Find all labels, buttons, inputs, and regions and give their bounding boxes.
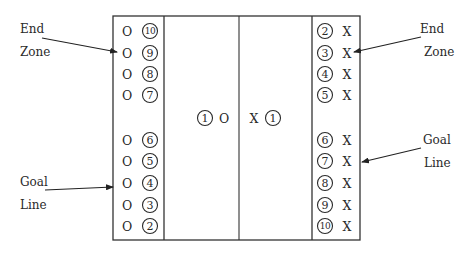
center-right-player-number: 1 <box>270 112 277 125</box>
right-player: 6X <box>318 133 352 148</box>
player-number: 8 <box>322 177 329 190</box>
annotation-left-end-zone: End Zone <box>20 22 117 59</box>
player-marker-o: O <box>122 67 132 82</box>
player-number: 5 <box>147 155 154 168</box>
player-marker-o: O <box>122 88 132 103</box>
left-player: O6 <box>122 133 158 148</box>
left-player: O9 <box>122 46 158 61</box>
player-number: 7 <box>147 89 154 102</box>
annotation-label-line1: End <box>20 22 44 36</box>
arrow-icon <box>354 37 421 52</box>
left-player: O7 <box>122 88 158 103</box>
player-number: 4 <box>147 177 154 190</box>
player-marker-o: O <box>122 198 132 213</box>
left-player: O4 <box>122 176 158 191</box>
player-number: 6 <box>147 134 154 147</box>
left-player: O3 <box>122 198 158 213</box>
annotation-right-goal-line: Goal Line <box>362 133 451 170</box>
annotation-label-line1: Goal <box>20 175 48 189</box>
player-number: 6 <box>322 134 329 147</box>
player-marker-o: O <box>122 154 132 169</box>
left-player: O5 <box>122 154 158 169</box>
player-number: 9 <box>147 47 154 60</box>
arrow-icon <box>362 148 421 162</box>
player-number: 2 <box>322 25 329 38</box>
annotation-left-goal-line: Goal Line <box>20 175 113 212</box>
player-marker-x: X <box>343 46 352 61</box>
right-player: 10X <box>318 219 352 234</box>
left-player: O10 <box>122 24 158 39</box>
right-player: 9X <box>318 198 352 213</box>
player-marker-x: X <box>343 198 352 213</box>
player-marker-x: X <box>343 176 352 191</box>
player-marker-x: X <box>343 219 352 234</box>
right-player: 3X <box>318 46 352 61</box>
player-marker-x: X <box>343 154 352 169</box>
player-number: 5 <box>322 89 329 102</box>
player-marker-o: O <box>122 176 132 191</box>
player-marker-o: O <box>122 46 132 61</box>
player-number: 4 <box>322 68 329 81</box>
player-marker-x: X <box>343 24 352 39</box>
player-marker-o: O <box>122 219 132 234</box>
player-number: 10 <box>320 221 331 231</box>
field-diagram: O10O9O8O7O6O5O4O3O2 2X3X4X5X6X7X8X9X10X … <box>0 0 471 256</box>
left-player: O8 <box>122 67 158 82</box>
annotation-label-line2: Zone <box>20 45 50 59</box>
player-number: 2 <box>147 220 154 233</box>
right-player: 2X <box>318 24 352 39</box>
player-number: 9 <box>322 199 329 212</box>
arrow-icon <box>42 38 117 52</box>
center-left-player-marker: O <box>219 111 229 126</box>
player-marker-o: O <box>122 24 132 39</box>
player-marker-x: X <box>343 133 352 148</box>
player-number: 10 <box>145 26 156 36</box>
player-marker-o: O <box>122 133 132 148</box>
annotation-label-line2: Zone <box>424 45 454 59</box>
right-player: 4X <box>318 67 352 82</box>
player-number: 3 <box>322 47 329 60</box>
annotation-right-end-zone: End Zone <box>354 22 454 59</box>
annotation-label-line2: Line <box>20 198 47 212</box>
player-number: 7 <box>322 155 329 168</box>
player-number: 3 <box>147 199 154 212</box>
player-marker-x: X <box>343 88 352 103</box>
right-player: 8X <box>318 176 352 191</box>
right-player: 5X <box>318 88 352 103</box>
annotation-label-line1: Goal <box>423 133 451 147</box>
center-left-player-number: 1 <box>202 112 209 125</box>
left-team: O10O9O8O7O6O5O4O3O2 <box>122 24 158 234</box>
player-marker-x: X <box>343 67 352 82</box>
annotation-label-line2: Line <box>424 156 451 170</box>
left-player: O2 <box>122 219 158 234</box>
right-team: 2X3X4X5X6X7X8X9X10X <box>318 24 352 234</box>
player-number: 8 <box>147 68 154 81</box>
right-player: 7X <box>318 154 352 169</box>
arrow-icon <box>45 187 113 190</box>
annotation-label-line1: End <box>420 22 444 36</box>
center-right-player-marker: X <box>250 111 259 126</box>
